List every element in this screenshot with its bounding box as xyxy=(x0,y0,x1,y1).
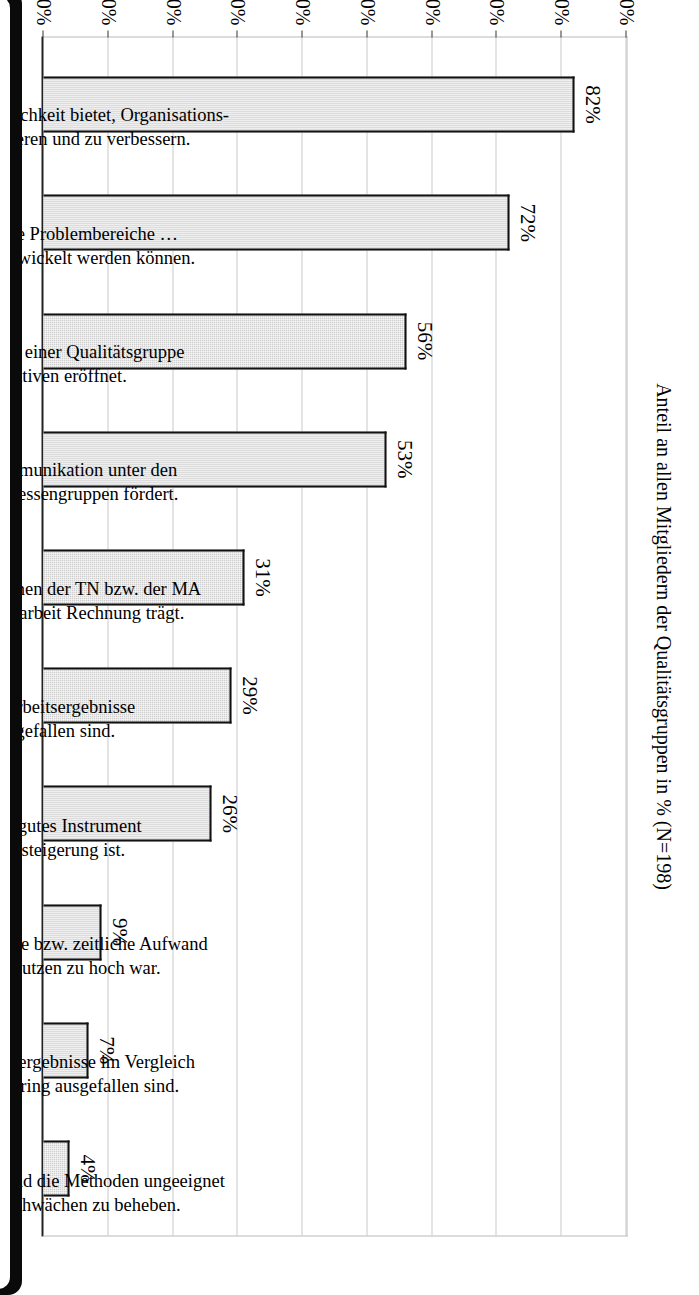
axis-tick xyxy=(625,30,626,37)
value-axis-tick-label: 90% xyxy=(616,0,636,25)
axis-tick xyxy=(431,30,432,37)
value-axis-tick-label: 70% xyxy=(486,0,506,25)
value-axis-tick-label: 0% xyxy=(33,0,53,25)
category-label: Ja, weil es die Kommunikation unter den … xyxy=(0,458,235,505)
axis-tick xyxy=(560,30,561,37)
category-label: Ja, weil es ein gutes Instrument zur Eff… xyxy=(0,814,235,861)
category-label: Nein, weil das Material und die Methoden… xyxy=(0,1169,235,1216)
value-axis-tick-label: 60% xyxy=(422,0,442,25)
value-axis-tick-label: 30% xyxy=(227,0,247,25)
category-label: Ja, weil die Arbeitsergebnisse positiv a… xyxy=(0,695,235,742)
value-axis-tick-label: 40% xyxy=(292,0,312,25)
bar-value-label: 56% xyxy=(413,321,434,360)
bar-value-label: 29% xyxy=(238,676,259,715)
bar-value-label: 53% xyxy=(393,439,414,478)
scanned-page-edge-inner xyxy=(0,0,10,1289)
axis-tick xyxy=(495,30,496,37)
axis-tick xyxy=(366,30,367,37)
value-axis-tick-label: 50% xyxy=(357,0,377,25)
value-axis-title: Anteil an allen Mitgliedern der Qualität… xyxy=(653,36,673,1236)
bar-value-label: 72% xyxy=(516,203,537,242)
category-label: Nein, weil der personelle bzw. zeitliche… xyxy=(0,932,235,979)
category-label: Ja, weil die Arbeit in einer Qualitätsgr… xyxy=(0,340,235,387)
value-axis-tick-label: 80% xyxy=(551,0,571,25)
bar-value-label: 31% xyxy=(251,558,272,597)
category-label: Ja, weil es … Ansprüchen der TN bzw. der… xyxy=(0,577,235,624)
axis-tick xyxy=(172,30,173,37)
value-axis-tick-label: 10% xyxy=(98,0,118,25)
category-label: Ja, weil es eine gute Möglichkeit bietet… xyxy=(0,103,235,150)
category-label: Ja, weil für konkrete Problembereiche … … xyxy=(0,222,235,269)
axis-tick xyxy=(42,30,43,37)
axis-tick xyxy=(301,30,302,37)
axis-tick xyxy=(107,30,108,37)
axis-tick xyxy=(236,30,237,37)
category-label: Nein, weil die Arbeitsergebnisse im Verg… xyxy=(0,1050,235,1097)
value-axis-tick-label: 20% xyxy=(163,0,183,25)
bar-value-label: 82% xyxy=(581,85,602,124)
